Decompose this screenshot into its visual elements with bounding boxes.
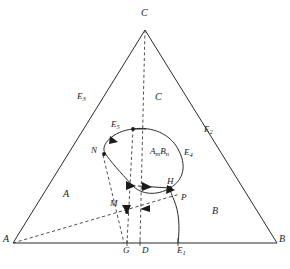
dashed-line-a-to-p — [13, 194, 180, 243]
eutectic-label-e2: E2 — [204, 125, 213, 134]
e3-base: E — [77, 91, 83, 101]
e2-sub: 2 — [210, 128, 213, 135]
region-label-b: B — [212, 206, 218, 216]
e1-base: E — [177, 245, 183, 255]
e5-sub: 5 — [117, 123, 120, 130]
e4-sub: 4 — [190, 151, 193, 158]
region-label-a: A — [63, 189, 69, 199]
ambn-sub-n: n — [166, 150, 169, 157]
eutectic-label-e4: E4 — [184, 148, 193, 157]
ambn-a: A — [150, 146, 156, 156]
e3-sub: 3 — [83, 95, 86, 102]
vertex-label-c: C — [141, 8, 148, 18]
arrowhead-a-to-p — [140, 205, 150, 212]
ternary-triangle-outline — [13, 30, 277, 243]
point-label-g: G — [123, 246, 130, 255]
arrowhead-n-dashed — [122, 205, 131, 214]
e1-sub: 1 — [183, 249, 186, 256]
point-label-m: M — [110, 199, 118, 208]
dashed-line-c-to-d — [140, 30, 145, 243]
ambn-b: B — [160, 146, 166, 156]
region-label-ambn: AmBn — [150, 147, 169, 156]
marker-dot-n — [102, 152, 106, 156]
eutectic-label-e3: E3 — [77, 92, 86, 101]
e5-base: E — [111, 119, 117, 129]
vertex-label-a: A — [3, 234, 9, 244]
point-label-n: N — [91, 146, 97, 155]
point-label-p: P — [181, 193, 187, 202]
point-label-h: H — [167, 177, 174, 186]
point-label-d: D — [142, 246, 149, 255]
arrowhead-junction-right — [142, 182, 152, 191]
e2-base: E — [204, 124, 210, 134]
marker-dot-e5 — [131, 127, 135, 131]
vertex-label-b: B — [279, 234, 285, 244]
arrowhead-e5-descending — [109, 136, 118, 144]
diagram-canvas — [0, 0, 290, 269]
arrowhead-loop-bottom-left — [126, 181, 136, 190]
eutectic-label-e1: E1 — [177, 246, 186, 255]
eutectic-label-e5: E5 — [111, 120, 120, 129]
ternary-phase-diagram: A B C A B C AmBn E1 E2 E3 E4 E5 N H P M … — [0, 0, 290, 269]
region-label-c: C — [155, 92, 162, 102]
e4-base: E — [184, 147, 190, 157]
ambn-sub-m: m — [156, 150, 161, 157]
